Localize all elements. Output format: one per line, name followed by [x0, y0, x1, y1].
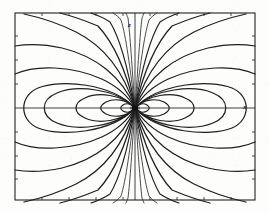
horizontal-axis-label: x	[243, 104, 247, 111]
dipole-field-figure: z x	[0, 0, 269, 213]
field-line	[135, 108, 246, 202]
open-lines-upper-left	[15, 13, 135, 108]
dipole-center-marker	[130, 105, 140, 111]
field-line-plot	[0, 0, 269, 213]
field-line	[15, 68, 135, 108]
field-line	[24, 108, 135, 202]
open-lines-lower-left	[15, 108, 135, 203]
field-line	[15, 108, 135, 148]
vertical-axis-label: z	[128, 22, 131, 29]
field-line	[135, 14, 246, 108]
open-lines-lower-right	[135, 108, 255, 203]
field-line	[135, 108, 255, 148]
field-line	[24, 14, 135, 108]
field-line	[135, 68, 255, 108]
open-lines-upper-right	[135, 13, 255, 108]
